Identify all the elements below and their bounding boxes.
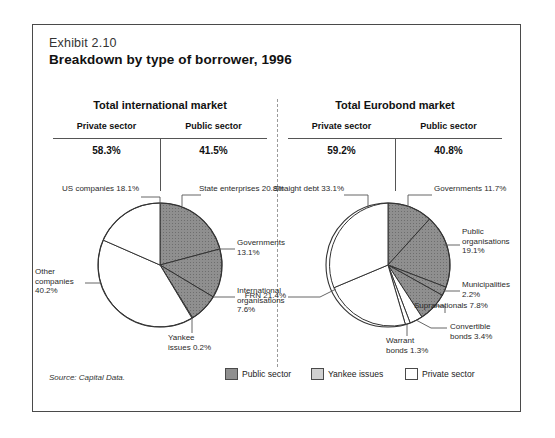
label-warrant-bonds: Warrant bonds 1.3% — [386, 336, 446, 355]
private-total-left: 58.3% — [53, 145, 160, 156]
panel-divider — [277, 99, 278, 367]
panel-title-right: Total Eurobond market — [284, 99, 506, 111]
label-supranationals: Supranationals 7.8% — [414, 301, 510, 311]
public-sector-header-left: Public sector — [160, 121, 267, 131]
chart-panel-international: Total international market Private secto… — [49, 99, 271, 399]
exhibit-frame: Exhibit 2.10 Breakdown by type of borrow… — [32, 24, 521, 412]
pie-wrap-right: Straight debt 33.1% Governments 11.7% Pu… — [284, 187, 506, 347]
legend-label-private-sector: Private sector — [422, 369, 475, 379]
exhibit-number: Exhibit 2.10 — [49, 36, 117, 50]
sector-totals-right: 59.2% 40.8% — [288, 145, 502, 159]
panel-title-left: Total international market — [49, 99, 271, 111]
legend-swatch-yankee-issues — [311, 368, 324, 380]
chart-panel-eurobond: Total Eurobond market Private sector Pub… — [284, 99, 506, 399]
label-straight-debt: Straight debt 33.1% — [260, 184, 344, 194]
public-total-right: 40.8% — [395, 145, 502, 156]
private-sector-header-right: Private sector — [288, 121, 395, 131]
legend-swatch-private-sector — [405, 368, 418, 380]
legend-label-yankee-issues: Yankee issues — [328, 369, 383, 379]
leader-governments-right — [408, 195, 432, 207]
label-municipalities: Municipalities 2.2% — [462, 280, 526, 299]
source-note: Source: Capital Data. — [49, 373, 125, 382]
sector-header-left: Private sector Public sector — [53, 121, 267, 137]
leader-convertible-bonds — [416, 320, 447, 328]
legend: Public sector Yankee issues Private sect… — [225, 368, 509, 386]
private-total-right: 59.2% — [288, 145, 395, 156]
page-title: Breakdown by type of borrower, 1996 — [49, 52, 292, 67]
sector-header-right: Private sector Public sector — [288, 121, 502, 137]
leader-straight-debt — [344, 195, 368, 207]
pie-wrap-left: US companies 18.1% State enterprises 20.… — [49, 187, 271, 347]
legend-label-public-sector: Public sector — [242, 369, 291, 379]
leader-state-enterprises — [182, 195, 201, 206]
public-total-left: 41.5% — [160, 145, 267, 156]
label-convertible-bonds: Convertible bonds 3.4% — [450, 322, 514, 341]
label-yankee-issues: Yankee issues 0.2% — [168, 333, 238, 352]
leader-frn — [288, 289, 336, 297]
label-us-companies: US companies 18.1% — [33, 184, 139, 194]
private-sector-header-left: Private sector — [53, 121, 160, 131]
label-other-companies: Other companies 40.2% — [35, 267, 85, 296]
legend-swatch-public-sector — [225, 368, 238, 380]
label-frn: FRN 21.4% — [234, 291, 286, 301]
label-governments-right: Governments 11.7% — [434, 184, 524, 194]
sector-totals-left: 58.3% 41.5% — [53, 145, 267, 159]
label-public-organisations: Public organisations 19.1% — [462, 227, 526, 256]
public-sector-header-right: Public sector — [395, 121, 502, 131]
